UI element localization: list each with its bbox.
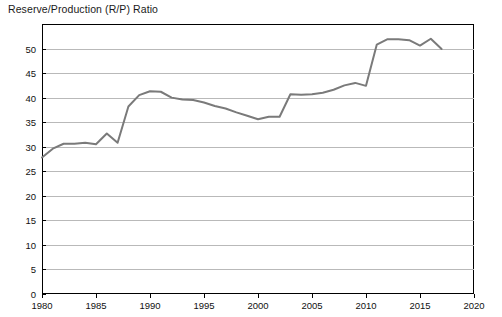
y-tick-label: 10: [2, 240, 36, 251]
x-tick-mark: [366, 294, 367, 298]
x-tick-mark: [150, 294, 151, 298]
series-line-rp-ratio: [42, 24, 474, 294]
x-tick-label: 2000: [238, 300, 278, 311]
x-tick-label: 1995: [184, 300, 224, 311]
x-tick-mark: [312, 294, 313, 298]
y-tick-label: 30: [2, 142, 36, 153]
chart-title: Reserve/Production (R/P) Ratio: [8, 3, 158, 15]
x-tick-label: 1980: [22, 300, 62, 311]
x-tick-mark: [258, 294, 259, 298]
data-line: [42, 39, 442, 158]
plot-area: 0510152025303540455019801985199019952000…: [42, 24, 474, 294]
y-tick-label: 45: [2, 68, 36, 79]
y-tick-mark: [42, 294, 46, 295]
x-tick-label: 2015: [400, 300, 440, 311]
x-tick-label: 2005: [292, 300, 332, 311]
x-tick-label: 1985: [76, 300, 116, 311]
y-tick-label: 50: [2, 44, 36, 55]
x-tick-mark: [420, 294, 421, 298]
x-tick-label: 1990: [130, 300, 170, 311]
y-tick-label: 40: [2, 93, 36, 104]
y-tick-label: 5: [2, 264, 36, 275]
y-tick-label: 15: [2, 215, 36, 226]
y-tick-label: 35: [2, 117, 36, 128]
y-tick-label: 25: [2, 166, 36, 177]
chart-container: Reserve/Production (R/P) Ratio 051015202…: [0, 0, 502, 317]
x-tick-mark: [474, 294, 475, 298]
x-tick-label: 2010: [346, 300, 386, 311]
x-tick-mark: [42, 294, 43, 298]
x-tick-mark: [96, 294, 97, 298]
x-tick-label: 2020: [454, 300, 494, 311]
x-tick-mark: [204, 294, 205, 298]
y-tick-label: 0: [2, 289, 36, 300]
y-tick-label: 20: [2, 191, 36, 202]
